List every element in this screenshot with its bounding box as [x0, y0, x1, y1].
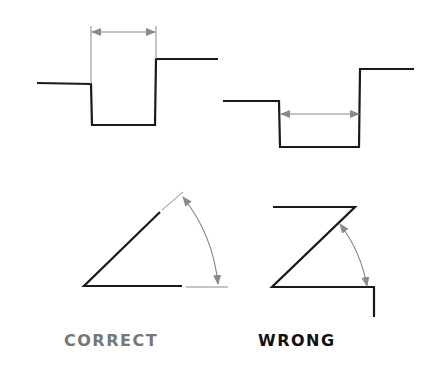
- angular-dimension-arc: [183, 197, 218, 284]
- correct-angular-example: [84, 192, 228, 287]
- object-outline: [84, 212, 182, 286]
- correct-label: CORRECT: [64, 331, 158, 350]
- object-outline: [272, 207, 374, 317]
- correct-linear-example: [37, 26, 218, 125]
- extension-line-angle: [162, 192, 183, 210]
- dimensioning-diagram: CORRECT WRONG: [0, 0, 424, 378]
- wrong-angular-example: [272, 207, 374, 317]
- diagram-figure: [0, 0, 424, 378]
- wrong-label: WRONG: [258, 331, 336, 350]
- wrong-linear-example: [223, 69, 414, 147]
- object-outline: [223, 69, 414, 147]
- object-outline: [37, 59, 218, 125]
- angular-dimension-arc: [340, 224, 367, 286]
